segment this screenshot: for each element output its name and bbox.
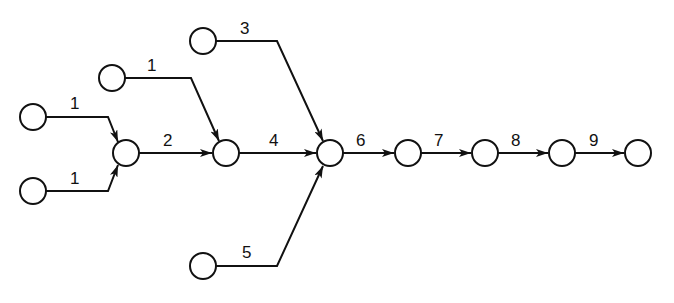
node-D	[99, 65, 125, 91]
edge-label-C-E: 2	[163, 131, 172, 150]
network-diagram: 1 1 2 1 4 3 5 6 7 8 9	[0, 0, 674, 303]
edge-label-D-E: 1	[147, 56, 156, 75]
edge-label-B-C: 1	[70, 169, 79, 188]
edge-label-J-K: 8	[511, 131, 520, 150]
node-I	[395, 140, 421, 166]
node-L	[625, 140, 651, 166]
edge-F-G	[216, 41, 323, 141]
edge-label-F-G: 3	[240, 19, 249, 38]
node-H	[190, 253, 216, 279]
edge-label-K-L: 9	[589, 131, 598, 150]
edge-A-C	[46, 117, 118, 142]
edge-label-I-J: 7	[434, 131, 443, 150]
edge-label-G-I: 6	[356, 131, 365, 150]
edge-H-G	[216, 166, 323, 266]
node-B	[20, 178, 46, 204]
edge-label-A-C: 1	[70, 94, 79, 113]
node-F	[190, 28, 216, 54]
edge-label-H-G: 5	[242, 243, 251, 262]
node-G	[317, 140, 343, 166]
node-E	[213, 140, 239, 166]
edge-label-E-G: 4	[269, 131, 278, 150]
node-A	[20, 104, 46, 130]
edge-B-C	[46, 165, 118, 191]
node-J	[472, 140, 498, 166]
node-C	[113, 140, 139, 166]
node-K	[549, 140, 575, 166]
